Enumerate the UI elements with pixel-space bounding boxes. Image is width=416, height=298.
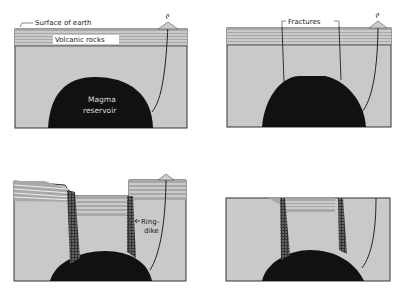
label-dike: dike [144,227,159,235]
label-magma: Magma [88,95,116,104]
label-fractures: Fractures [288,18,321,26]
volcano-cone [369,21,387,28]
label-reservoir: reservoir [83,106,117,115]
label-surface: Surface of earth [35,19,92,27]
volcano-cone [158,22,178,29]
eruption-plume [376,13,379,18]
panel-4 [226,198,390,281]
label-ring: Ring- [141,218,160,226]
volcano-cone [158,174,174,180]
surface-pointer [20,23,33,27]
panel-2: Fractures [227,13,391,127]
panel-1: Surface of earth Volcanic rocks Magma re… [15,14,187,128]
label-volcanic-rocks: Volcanic rocks [55,36,105,44]
ring-dike-diagram: Surface of earth Volcanic rocks Magma re… [0,0,416,298]
panel-3: Ring- dike [14,174,186,281]
eruption-plume [166,14,169,19]
right-block-strata [129,180,186,200]
subsided-block-strata [72,196,129,216]
